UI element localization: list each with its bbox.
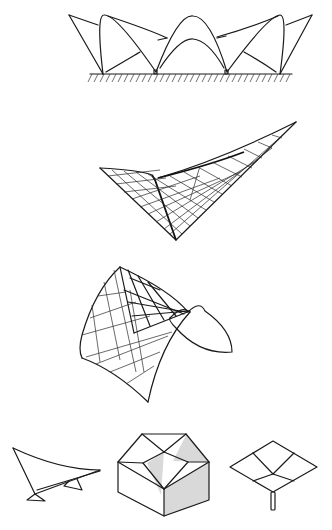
elevation-row-drawing <box>0 0 332 530</box>
elevation-row <box>69 15 312 82</box>
hypar-saddle-wing <box>100 122 296 240</box>
diagram-canvas: Hyperbolic paraboloid (hypar) shell stru… <box>0 0 332 530</box>
umbrella-hypar <box>230 441 317 510</box>
sail-hypar <box>13 448 100 501</box>
four-hypar-roof <box>118 434 209 516</box>
hypar-saddle-dome <box>80 267 232 402</box>
